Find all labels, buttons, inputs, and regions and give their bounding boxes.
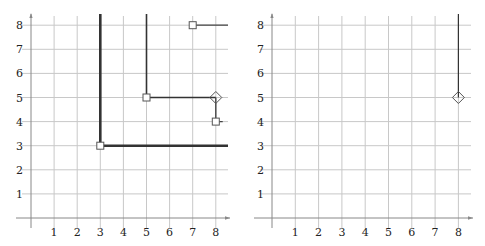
x-tick-label: 1 bbox=[292, 226, 299, 239]
thick-corner-path-3-3 bbox=[100, 14, 228, 146]
y-axis-arrow-icon bbox=[29, 13, 32, 18]
x-tick-label: 3 bbox=[97, 226, 104, 239]
y-tick-label: 7 bbox=[16, 43, 23, 56]
y-tick-label: 3 bbox=[257, 140, 264, 153]
square-marker-icon bbox=[189, 22, 196, 29]
y-tick-label: 6 bbox=[257, 67, 264, 80]
y-tick-label: 6 bbox=[16, 67, 23, 80]
x-tick-label: 2 bbox=[315, 226, 322, 239]
x-axis-arrow-icon bbox=[468, 216, 473, 220]
y-tick-label: 1 bbox=[257, 188, 264, 201]
square-marker-icon bbox=[97, 142, 104, 149]
x-tick-label: 7 bbox=[432, 226, 439, 239]
y-tick-label: 7 bbox=[257, 43, 264, 56]
x-tick-label: 3 bbox=[338, 226, 345, 239]
x-tick-label: 4 bbox=[120, 226, 127, 239]
x-tick-label: 6 bbox=[166, 226, 173, 239]
y-tick-label: 2 bbox=[257, 164, 264, 177]
y-tick-label: 3 bbox=[16, 140, 23, 153]
square-marker-icon bbox=[212, 118, 219, 125]
y-axis-arrow-icon bbox=[270, 13, 273, 18]
x-tick-label: 6 bbox=[408, 226, 415, 239]
corner-path-5-5 bbox=[147, 14, 216, 98]
grid-panel-right: 1234567812345678 bbox=[254, 13, 473, 239]
x-tick-label: 2 bbox=[74, 226, 81, 239]
x-tick-label: 5 bbox=[143, 226, 150, 239]
y-tick-label: 1 bbox=[16, 188, 23, 201]
x-axis-arrow-icon bbox=[225, 216, 230, 220]
y-tick-label: 2 bbox=[16, 164, 23, 177]
x-tick-label: 1 bbox=[51, 226, 58, 239]
x-tick-label: 7 bbox=[189, 226, 196, 239]
y-tick-label: 4 bbox=[16, 116, 23, 129]
x-tick-label: 8 bbox=[455, 226, 462, 239]
diagram-canvas: 12345678123456781234567812345678 bbox=[0, 0, 485, 246]
y-tick-label: 4 bbox=[257, 116, 264, 129]
y-tick-label: 5 bbox=[257, 92, 264, 105]
y-tick-label: 5 bbox=[16, 92, 23, 105]
x-tick-label: 5 bbox=[385, 226, 392, 239]
x-tick-label: 4 bbox=[362, 226, 369, 239]
y-tick-label: 8 bbox=[16, 19, 23, 32]
x-tick-label: 8 bbox=[212, 226, 219, 239]
square-marker-icon bbox=[143, 94, 150, 101]
grid-panel-left: 1234567812345678 bbox=[16, 13, 230, 239]
y-tick-label: 8 bbox=[257, 19, 264, 32]
